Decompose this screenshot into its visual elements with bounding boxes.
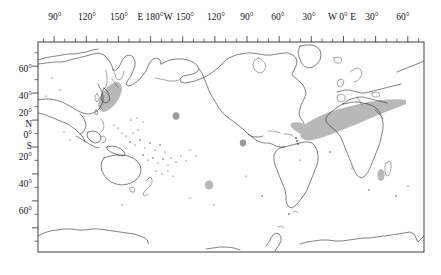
x-axis-label-30e: 30° (365, 13, 378, 23)
coastlines-layer (38, 45, 424, 251)
coastline-australia (101, 155, 141, 185)
y-axis-label-60n: 60° (8, 65, 32, 75)
coastline-new-zealand (143, 177, 152, 196)
y-axis-label-20n: 20° (8, 109, 32, 119)
coastline-central-america (248, 134, 284, 147)
shaded-region-kuroshio-japan (93, 78, 126, 116)
coastline-eurasia-arctic (38, 49, 98, 60)
y-axis-label-60s: 60° (8, 207, 32, 217)
coastline-sulawesi (101, 136, 106, 143)
x-axis-label-60w: 60° (271, 13, 284, 23)
x-axis-label-90e: 90° (48, 13, 61, 23)
coastline-sakhalin (104, 70, 107, 89)
coastline-new-guinea (107, 146, 125, 156)
y-axis-label-n: N (8, 120, 32, 130)
coastline-kamchatka-detail (113, 70, 124, 80)
coastline-south-georgia (293, 211, 298, 213)
y-axis-ticks (32, 53, 38, 241)
shaded-region-hawaii (173, 112, 180, 120)
coastline-italy (357, 97, 362, 105)
x-axis-label-90w: 90° (240, 13, 253, 23)
coastline-indonesia-sumatra (76, 136, 99, 148)
y-axis-label-20s: 20° (8, 153, 32, 163)
x-axis-label-150w: 150° (176, 13, 194, 23)
coastline-scandinavia (350, 68, 362, 82)
coastline-antarctica (38, 229, 148, 244)
coastline-philippines (101, 119, 104, 132)
coastline-aleutian-islands (155, 78, 179, 81)
x-axis-label-180: E 180°W (137, 13, 172, 23)
coastline-madagascar (385, 161, 391, 176)
map-content (38, 45, 424, 251)
shaded-region-galapagos (240, 140, 246, 147)
coastline-north-america-east (241, 53, 306, 123)
coastline-south-america (274, 142, 318, 208)
x-axis-label-30w: 30° (302, 13, 315, 23)
coastline-indochina (80, 114, 86, 134)
y-axis-label-40s: 40° (8, 180, 32, 190)
coastline-indonesia-java-borneo (87, 131, 101, 143)
shaded-region-north-atlantic-tail (291, 122, 309, 134)
y-axis-label-s: S (8, 142, 32, 152)
coastline-british-isles (337, 79, 344, 87)
coastline-alaska (161, 54, 241, 83)
x-axis-ticks (43, 36, 418, 42)
coastline-greenland (298, 45, 321, 68)
coastline-iberia (337, 94, 345, 102)
coastline-eurasia-arctic-west (397, 61, 424, 72)
x-axis-label-0: W 0° E (328, 13, 356, 23)
x-axis-label-120w: 120° (207, 13, 225, 23)
shaded-region-north-atlantic (300, 99, 406, 140)
coastline-korea (95, 94, 99, 102)
coastline-iceland (334, 57, 342, 63)
y-axis-label-0: 0° (8, 131, 32, 141)
coastline-black-sea (372, 92, 380, 97)
coastline-se-asia (38, 113, 85, 142)
shaded-region-mozambique-channel (377, 169, 384, 181)
coastline-antarctica-pacific (206, 247, 240, 250)
coastline-ne-asia (38, 53, 161, 86)
coastline-hudson-bay (253, 58, 266, 73)
coastline-tasmania (130, 187, 135, 192)
coastline-east-asia (38, 84, 103, 114)
map-plot-area (0, 0, 441, 275)
shaded-region-south-pacific (205, 180, 213, 189)
x-axis-label-120e: 120° (78, 13, 96, 23)
x-axis-label-60e: 60° (396, 13, 409, 23)
coastline-europe (337, 84, 401, 93)
x-axis-label-150e: 150° (110, 13, 128, 23)
y-axis-label-40n: 40° (8, 92, 32, 102)
coastline-caribbean-islands (268, 131, 280, 133)
coastline-north-america-west (199, 69, 263, 137)
coastline-antarctic-peninsula (266, 233, 281, 251)
world-map-figure: 90° 120° 150° E 180°W 150° 120° 90° 60° … (0, 0, 441, 275)
coastline-south-shetland (278, 226, 284, 228)
coastline-antarctica-atlantic (300, 232, 424, 244)
coastline-hispaniola (284, 134, 293, 136)
